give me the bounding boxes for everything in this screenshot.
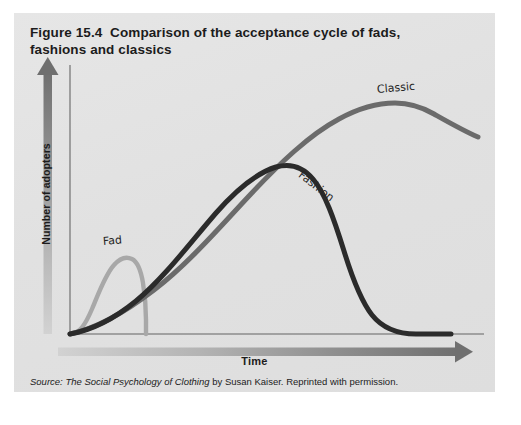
curve-label-fad: Fad (102, 233, 122, 248)
figure-root: Figure 15.4 Comparison of the acceptance… (0, 0, 521, 425)
x-axis-label: Time (14, 355, 521, 367)
axis-lines (70, 65, 484, 334)
y-axis-label: Number of adopters (40, 114, 52, 274)
figure-panel: Figure 15.4 Comparison of the acceptance… (14, 13, 495, 392)
curve-fashion (70, 166, 451, 335)
source-line: Source: The Social Psychology of Clothin… (30, 375, 398, 388)
curve-classic (70, 103, 478, 334)
source-prefix: Source: (30, 376, 63, 387)
source-work-title: The Social Psychology of Clothing (65, 376, 209, 387)
acceptance-cycle-chart (14, 13, 495, 392)
source-author: by Susan Kaiser. (212, 376, 283, 387)
plot-area: Number of adopters Time Fad Fashion Clas… (14, 13, 495, 392)
source-permission: Reprinted with permission. (286, 376, 398, 387)
